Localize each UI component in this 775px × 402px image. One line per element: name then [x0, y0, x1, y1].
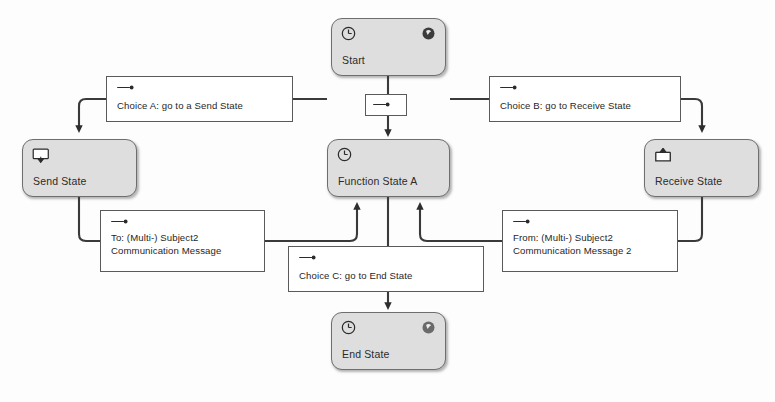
state-node-end-state[interactable]: End State [331, 312, 446, 370]
arrow-right-icon [499, 84, 518, 91]
state-label: End State [342, 348, 389, 360]
transition-label: Choice C: go to End State [299, 270, 412, 281]
transition-label-line1: From: (Multi-) Subject2 [513, 232, 613, 243]
clock-icon [337, 147, 352, 162]
transition-label-line2: Communication Message 2 [513, 245, 632, 256]
edge-sendstate-to-message [79, 197, 100, 241]
state-label: Send State [33, 175, 86, 187]
transition-label: Choice A: go to a Send State [117, 100, 243, 111]
arrow-right-icon [116, 84, 135, 91]
state-node-receive-state[interactable]: Receive State [644, 139, 759, 197]
state-node-send-state[interactable]: Send State [22, 139, 137, 197]
edge-choicea-to-sendstate [79, 99, 106, 129]
state-node-function-state-a[interactable]: Function State A [327, 139, 450, 197]
transition-label-line2: Communication Message [111, 245, 221, 256]
edge-choiceb-to-receivestate [681, 99, 702, 129]
state-label: Receive State [655, 175, 722, 187]
send-icon [32, 148, 51, 164]
arrow-right-icon [512, 218, 531, 225]
transition-junction-box[interactable] [365, 94, 407, 116]
edge-message-to-function-left [265, 206, 357, 241]
receive-icon [654, 148, 673, 164]
state-node-start[interactable]: Start [331, 18, 446, 76]
transition-box-message-to[interactable]: To: (Multi-) Subject2 Communication Mess… [100, 210, 265, 272]
clock-icon [341, 26, 356, 41]
arrow-right-icon [372, 101, 391, 108]
sphere-icon [421, 26, 436, 41]
edge-receivestate-to-message [678, 197, 702, 241]
clock-icon [341, 320, 356, 335]
transition-label-line1: To: (Multi-) Subject2 [111, 232, 198, 243]
state-label: Function State A [338, 175, 417, 187]
arrow-right-icon [298, 254, 317, 261]
state-label: Start [342, 54, 365, 66]
diagram-canvas: Start Choice A: go to a Send State Choic… [0, 0, 775, 402]
transition-box-message-from[interactable]: From: (Multi-) Subject2 Communication Me… [502, 210, 678, 272]
edge-message-to-function-right [420, 206, 502, 241]
transition-box-choice-a[interactable]: Choice A: go to a Send State [106, 76, 293, 122]
transition-box-choice-b[interactable]: Choice B: go to Receive State [489, 76, 681, 122]
transition-label: Choice B: go to Receive State [500, 100, 631, 111]
arrow-right-icon [110, 218, 129, 225]
transition-box-choice-c[interactable]: Choice C: go to End State [288, 246, 484, 292]
sphere-icon [421, 320, 436, 335]
